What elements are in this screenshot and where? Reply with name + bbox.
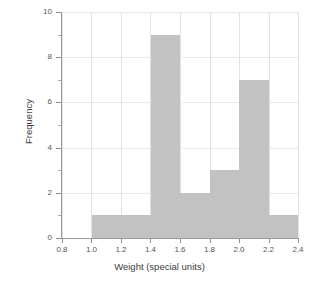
x-axis-title: Weight (special units)	[0, 261, 319, 272]
y-axis-tick	[56, 193, 61, 194]
x-axis-tick	[150, 239, 151, 243]
y-axis-tick-label: 6	[48, 98, 52, 106]
x-axis-tick-label: 1.2	[106, 245, 136, 254]
gridline-vertical	[298, 12, 299, 238]
histogram-bar	[269, 215, 299, 238]
x-axis-tick-label: 0.8	[47, 245, 77, 254]
histogram-bar	[151, 35, 181, 238]
x-axis-tick	[91, 239, 92, 243]
x-axis-tick	[269, 239, 270, 243]
y-axis-minor-tick	[58, 215, 61, 216]
y-axis-minor-tick	[58, 125, 61, 126]
y-axis-tick-label: 0	[48, 234, 52, 242]
gridline-vertical	[121, 12, 122, 238]
gridline-vertical	[91, 12, 92, 238]
y-axis-tick-label: 4	[48, 144, 52, 152]
y-axis-tick-label: 10	[43, 8, 52, 16]
x-axis-tick	[180, 239, 181, 243]
x-axis-tick	[298, 239, 299, 243]
x-axis-tick-label: 1.4	[136, 245, 166, 254]
y-axis-minor-tick	[58, 80, 61, 81]
x-axis-tick-label: 1.0	[77, 245, 107, 254]
x-axis-tick-label: 1.8	[195, 245, 225, 254]
gridline-vertical	[62, 12, 63, 238]
x-axis-tick	[62, 239, 63, 243]
histogram-bar	[180, 193, 210, 238]
y-axis-line	[61, 12, 62, 239]
y-axis-tick	[56, 148, 61, 149]
y-axis-title: Frequency	[23, 77, 34, 167]
x-axis-tick	[239, 239, 240, 243]
plot-area	[62, 12, 298, 238]
gridline-horizontal	[62, 12, 298, 13]
y-axis-tick-label: 2	[48, 189, 52, 197]
x-axis-tick-label: 2.4	[283, 245, 313, 254]
y-axis-minor-tick	[58, 170, 61, 171]
x-axis-tick-label: 2.2	[254, 245, 284, 254]
x-axis-tick-label: 2.0	[224, 245, 254, 254]
gridline-horizontal	[62, 57, 298, 58]
histogram-bar	[92, 215, 151, 238]
histogram-bar	[210, 170, 240, 238]
histogram-bar	[239, 80, 269, 238]
y-axis-minor-tick	[58, 35, 61, 36]
x-axis-tick-label: 1.6	[165, 245, 195, 254]
x-axis-tick	[121, 239, 122, 243]
y-axis-tick-label: 8	[48, 53, 52, 61]
gridline-vertical	[269, 12, 270, 238]
y-axis-tick	[56, 12, 61, 13]
y-axis-tick	[56, 102, 61, 103]
y-axis-tick	[56, 238, 61, 239]
x-axis-tick	[210, 239, 211, 243]
y-axis-tick	[56, 57, 61, 58]
histogram-figure: Frequency Weight (special units) 0246810…	[0, 0, 319, 283]
